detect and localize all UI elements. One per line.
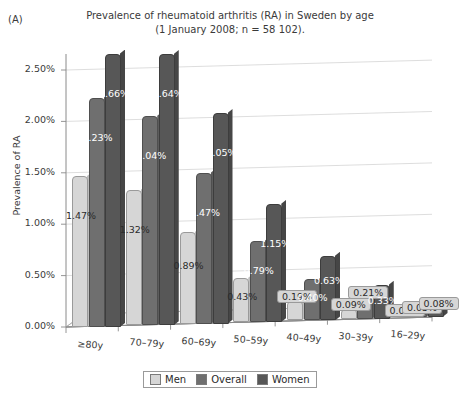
- legend-item-men[interactable]: Men: [150, 374, 186, 385]
- bar-label-women-≥80y: 2.66%: [97, 88, 131, 99]
- bar-men-≥80y[interactable]: [72, 176, 88, 327]
- legend-label-overall: Overall: [211, 374, 247, 385]
- bar-men-70–79y[interactable]: [126, 190, 142, 326]
- bar-men-40–49y[interactable]: [287, 301, 303, 321]
- legend-label-men: Men: [165, 374, 186, 385]
- bar-label-overall-50–59y: 0.79%: [242, 265, 276, 276]
- legend-item-overall[interactable]: Overall: [196, 374, 247, 385]
- bar-overall-60–69y[interactable]: [196, 173, 212, 324]
- x-axis-tick-5: 30–39y: [338, 330, 373, 343]
- bar-women-50–59y[interactable]: [266, 204, 282, 322]
- bar-label-women-16–29y: 0.08%: [419, 297, 459, 310]
- y-axis-tick-2: 1.00%: [9, 217, 55, 228]
- bar-label-women-50–59y: 1.15%: [258, 238, 292, 249]
- legend-item-women[interactable]: Women: [257, 374, 310, 385]
- x-axis-tick-0: ≥80y: [77, 338, 103, 351]
- bar-label-men-50–59y: 0.43%: [225, 291, 259, 302]
- bar-label-overall-≥80y: 2.23%: [81, 132, 115, 143]
- y-axis-tick-4: 2.00%: [9, 114, 55, 125]
- bar-label-women-60–69y: 2.05%: [205, 147, 239, 158]
- bar-label-men-60–69y: 0.89%: [172, 260, 206, 271]
- y-axis-tick-1: 0.50%: [9, 269, 55, 280]
- bar-label-men-30–39y: 0.09%: [331, 298, 371, 311]
- bar-label-women-40–49y: 0.63%: [312, 275, 346, 286]
- bar-label-overall-40–49y: 0.40%: [296, 292, 330, 303]
- y-axis-tick-0: 0.00%: [9, 320, 55, 331]
- y-axis-tick-3: 1.50%: [9, 166, 55, 177]
- legend-swatch-women-icon: [257, 374, 268, 385]
- x-axis-tick-3: 50–59y: [234, 333, 269, 346]
- bar-label-men-70–79y: 1.32%: [118, 224, 152, 235]
- legend-label-women: Women: [272, 374, 310, 385]
- bar-label-overall-70–79y: 2.04%: [134, 150, 168, 161]
- y-axis-tick-5: 2.50%: [9, 63, 55, 74]
- bar-label-women-70–79y: 2.64%: [151, 88, 185, 99]
- x-axis-tick-2: 60–69y: [181, 335, 216, 348]
- legend-swatch-men-icon: [150, 374, 161, 385]
- chart-legend: Men Overall Women: [143, 371, 317, 388]
- bar-side-women-3: [281, 200, 286, 322]
- legend-swatch-overall-icon: [196, 374, 207, 385]
- bar-overall-50–59y[interactable]: [250, 241, 266, 322]
- bar-label-overall-60–69y: 1.47%: [188, 207, 222, 218]
- bar-overall-70–79y[interactable]: [142, 116, 158, 326]
- bar-men-60–69y[interactable]: [180, 232, 196, 323]
- bar-label-men-≥80y: 1.47%: [64, 210, 98, 221]
